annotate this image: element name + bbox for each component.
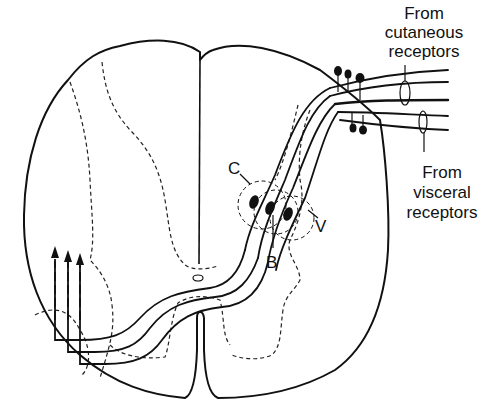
label-neuron-v: V (315, 217, 327, 236)
svg-text:receptors: receptors (407, 203, 478, 222)
label-neuron-b: B (266, 253, 277, 272)
neuron-v-field (270, 196, 314, 240)
label-neuron-c: C (228, 159, 240, 178)
dorsal-horn-fibers (245, 88, 338, 270)
gray-matter-boundary (70, 82, 113, 378)
label-visceral-receptors: From visceral receptors (407, 163, 478, 222)
svg-text:receptors: receptors (389, 42, 460, 61)
dorsal-median-septum (199, 60, 200, 264)
neuron-c-soma (247, 194, 260, 210)
spinal-cord-diagram: From cutaneous receptors From visceral r… (0, 0, 498, 417)
central-canal (193, 275, 203, 281)
svg-text:From: From (422, 163, 462, 182)
svg-text:From: From (404, 4, 444, 23)
svg-text:cutaneous: cutaneous (385, 23, 463, 42)
cutaneous-bundle-marker (400, 81, 410, 105)
svg-text:visceral: visceral (413, 183, 471, 202)
gray-matter-boundary-lower-mid (110, 297, 230, 358)
label-cutaneous-receptors: From cutaneous receptors (385, 4, 463, 61)
